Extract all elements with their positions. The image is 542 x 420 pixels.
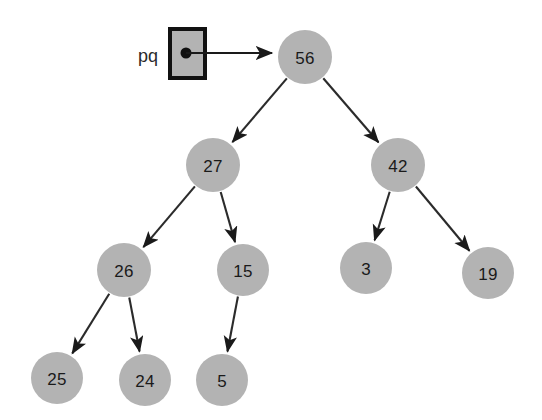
tree-node-19[interactable]: 19 bbox=[462, 247, 514, 299]
node-label-24: 24 bbox=[135, 372, 154, 391]
node-label-42: 42 bbox=[388, 157, 407, 176]
tree-edge-26-to-25 bbox=[72, 294, 109, 354]
node-label-56: 56 bbox=[295, 49, 314, 68]
tree-node-42[interactable]: 42 bbox=[371, 138, 425, 192]
tree-node-25[interactable]: 25 bbox=[31, 352, 83, 404]
tree-edge-42-to-19 bbox=[416, 187, 470, 251]
tree-node-5[interactable]: 5 bbox=[196, 354, 248, 406]
pointer-layer: pq bbox=[138, 29, 272, 78]
tree-node-26[interactable]: 26 bbox=[97, 243, 151, 297]
heap-diagram-svg: 562742261531925245 pq bbox=[0, 0, 542, 420]
node-label-25: 25 bbox=[47, 370, 66, 389]
tree-edge-56-to-42 bbox=[323, 78, 378, 142]
node-label-5: 5 bbox=[217, 372, 227, 391]
tree-edge-56-to-27 bbox=[232, 78, 286, 142]
node-label-19: 19 bbox=[478, 265, 497, 284]
tree-node-24[interactable]: 24 bbox=[119, 354, 171, 406]
node-label-15: 15 bbox=[233, 262, 252, 281]
tree-node-56[interactable]: 56 bbox=[278, 30, 332, 84]
pointer-variable-label: pq bbox=[138, 46, 158, 66]
tree-edge-27-to-15 bbox=[221, 192, 235, 242]
node-label-26: 26 bbox=[114, 262, 133, 281]
tree-edge-26-to-24 bbox=[129, 298, 139, 352]
node-label-27: 27 bbox=[203, 157, 222, 176]
tree-edge-42-to-3 bbox=[375, 192, 390, 241]
tree-node-27[interactable]: 27 bbox=[186, 138, 240, 192]
tree-node-15[interactable]: 15 bbox=[217, 244, 269, 296]
tree-edge-15-to-5 bbox=[227, 297, 237, 352]
node-label-3: 3 bbox=[361, 260, 371, 279]
tree-node-3[interactable]: 3 bbox=[340, 242, 392, 294]
tree-edge-27-to-26 bbox=[143, 186, 194, 247]
edge-layer bbox=[72, 78, 469, 353]
heap-diagram-canvas: 562742261531925245 pq bbox=[0, 0, 542, 420]
